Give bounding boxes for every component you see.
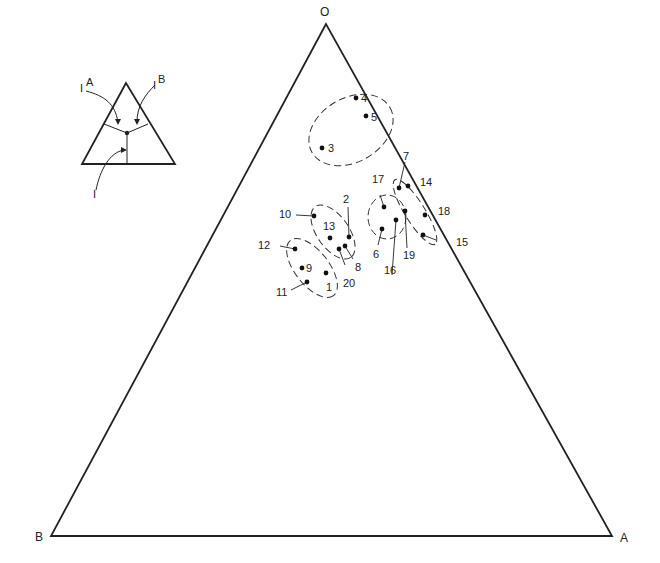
label-8: 8: [355, 261, 361, 273]
inset-label-ia: I: [80, 82, 83, 94]
ternary-diagram: O B A I A I B I: [0, 0, 660, 563]
label-18: 18: [438, 205, 450, 217]
label-13: 13: [323, 220, 335, 232]
point-20: [337, 247, 342, 252]
label-3: 3: [328, 142, 334, 154]
point-19: [403, 209, 408, 214]
point-labels: 1 2 3 4 5 6 7 8 9 10 11 12 13 14 15 16 1…: [258, 92, 468, 298]
cluster-6-16-17-19: [368, 195, 406, 239]
point-4: [354, 96, 359, 101]
point-17: [382, 205, 387, 210]
point-2: [347, 235, 352, 240]
inset-diagram: I A I B I: [80, 73, 175, 200]
label-2: 2: [343, 193, 349, 205]
point-18: [423, 213, 428, 218]
point-3: [320, 146, 325, 151]
point-15: [421, 233, 426, 238]
point-14: [406, 184, 411, 189]
label-20: 20: [343, 277, 355, 289]
point-13: [328, 236, 333, 241]
inset-label-ib-sup: B: [158, 73, 165, 85]
label-14: 14: [420, 176, 432, 188]
point-1: [324, 271, 329, 276]
point-11: [305, 280, 310, 285]
point-5: [364, 114, 369, 119]
label-9: 9: [306, 262, 312, 274]
label-12: 12: [258, 239, 270, 251]
vertex-label-b: B: [35, 530, 43, 544]
point-6: [380, 227, 385, 232]
point-9: [300, 266, 305, 271]
inset-label-i: I: [93, 188, 96, 200]
point-7: [397, 186, 402, 191]
vertex-label-a: A: [620, 531, 628, 545]
label-7: 7: [403, 150, 409, 162]
label-1: 1: [326, 281, 332, 293]
vertex-label-o: O: [320, 5, 329, 19]
point-12: [293, 247, 298, 252]
label-6: 6: [373, 248, 379, 260]
label-17: 17: [372, 173, 384, 185]
cluster-3-4-5: [296, 80, 406, 180]
point-16: [394, 218, 399, 223]
inset-label-ia-sup: A: [86, 76, 94, 88]
label-15: 15: [456, 236, 468, 248]
label-11: 11: [276, 286, 287, 298]
label-5: 5: [371, 111, 377, 123]
point-8: [343, 244, 348, 249]
inset-label-ib: I: [153, 79, 156, 91]
main-triangle: [51, 24, 612, 536]
point-10: [312, 214, 317, 219]
label-4: 4: [361, 92, 367, 104]
cluster-2-10-13-8-20: [302, 197, 364, 266]
label-10: 10: [279, 208, 291, 220]
label-16: 16: [384, 264, 396, 276]
label-19: 19: [403, 249, 415, 261]
